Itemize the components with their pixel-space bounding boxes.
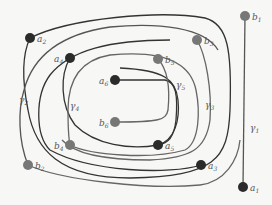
- node-a5: [153, 140, 163, 150]
- curve-label-gamma2: γ2: [19, 95, 28, 106]
- node-label-a3: a3: [208, 161, 217, 172]
- node-label-b3: b3: [204, 36, 214, 47]
- curve-label-gamma5: γ5: [176, 80, 185, 91]
- node-b6: [110, 117, 120, 127]
- node-a3: [196, 160, 206, 170]
- node-b3: [192, 35, 202, 45]
- curve-label-gamma1: γ1: [250, 123, 259, 134]
- nodes-layer: a1b1a2b2a3b3a4b4a5b5a6b6γ1γ2γ3γ4γ5: [0, 0, 272, 205]
- node-label-a5: a5: [165, 141, 174, 152]
- node-label-a4: a4: [54, 54, 63, 65]
- node-label-b6: b6: [99, 118, 109, 129]
- node-label-b4: b4: [54, 141, 64, 152]
- diagram-canvas: a1b1a2b2a3b3a4b4a5b5a6b6γ1γ2γ3γ4γ5: [0, 0, 272, 205]
- node-label-b1: b1: [252, 12, 262, 23]
- node-label-a6: a6: [99, 76, 108, 87]
- node-label-a2: a2: [37, 34, 46, 45]
- node-label-b2: b2: [35, 161, 45, 172]
- node-b5: [153, 54, 163, 64]
- node-a4: [65, 53, 75, 63]
- node-label-a1: a1: [250, 183, 259, 194]
- node-a1: [238, 182, 248, 192]
- node-b2: [23, 160, 33, 170]
- node-label-b5: b5: [165, 55, 175, 66]
- node-a2: [25, 33, 35, 43]
- curve-label-gamma4: γ4: [70, 101, 79, 112]
- node-b4: [65, 140, 75, 150]
- node-a6: [110, 75, 120, 85]
- curve-label-gamma3: γ3: [205, 100, 214, 111]
- node-b1: [240, 11, 250, 21]
